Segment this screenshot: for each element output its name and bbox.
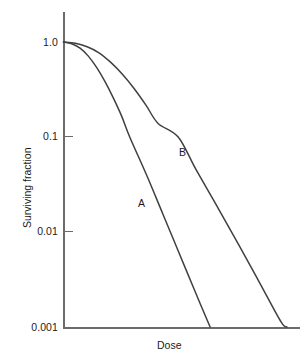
- y-tick-label-0-1: 0.1: [18, 131, 58, 142]
- y-tick-label-0-01: 0.01: [12, 226, 58, 237]
- curve-a: [64, 42, 211, 327]
- survival-curve-figure: 1.0 0.1 0.01 0.001 Surviving fraction Do…: [0, 0, 308, 361]
- curve-label-a: A: [138, 198, 145, 209]
- y-tick-label-0-001: 0.001: [6, 322, 58, 333]
- y-tick-label-1: 1.0: [18, 37, 58, 48]
- x-axis-title: Dose: [157, 340, 182, 351]
- curve-b: [64, 42, 287, 327]
- y-axis-title: Surviving fraction: [22, 147, 33, 228]
- plot-area: [0, 0, 308, 361]
- curve-label-b: B: [179, 147, 186, 158]
